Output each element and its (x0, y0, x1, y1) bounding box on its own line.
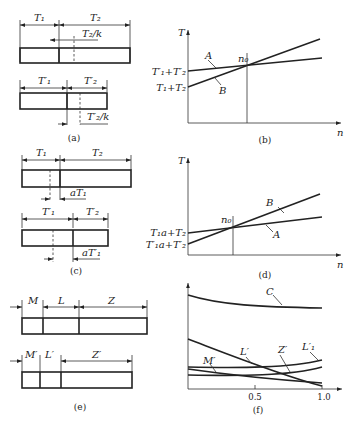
b-y-axis-label: T (178, 27, 186, 38)
f-curve-m-prime-label: M′ (202, 355, 216, 366)
e-bottom-m-label: M′ (24, 349, 38, 360)
a-bottom-t1-label: T′₁ (38, 75, 51, 86)
diagram-canvas: T₁ T₂ T₂/k T′₁ T′₂ T′₂/k (a) T n n₀ (0, 0, 352, 425)
e-top-z-label: Z (107, 295, 116, 306)
panel-d: T n n₀ B A T₁a+T₂ T′₁a+T′₂ (d) (146, 155, 344, 280)
f-curve-l1-prime-label: L′₁ (301, 341, 315, 352)
f-curve-z-prime-label: Z′ (277, 344, 288, 355)
a-top-t2-label: T₂ (90, 12, 101, 23)
d-line-b-label: B (265, 197, 273, 208)
c-bottom-shift-label: aT′₁ (82, 247, 101, 258)
panel-b: T n n₀ A B T′₁+T′₂ T₁+T₂ (b) (152, 27, 344, 145)
c-top-t1-label: T₁ (36, 147, 47, 158)
e-bottom-z-label: Z′ (91, 349, 102, 360)
e-top-bar (22, 318, 147, 334)
b-intercept-a: T′₁+T′₂ (152, 66, 186, 77)
a-top-shift-label: T₂/k (82, 28, 102, 39)
d-intercept-b: T′₁a+T′₂ (146, 239, 186, 250)
e-top-l-label: L (57, 295, 65, 306)
a-bottom-t2-label: T′₂ (84, 75, 97, 86)
b-intercept-b: T₁+T₂ (156, 82, 186, 93)
d-x-axis-label: n (337, 259, 343, 270)
b-line-b-label: B (218, 85, 226, 96)
a-top-t1-label: T₁ (34, 12, 45, 23)
e-bottom-l-label: L′ (44, 349, 55, 360)
b-intersection-label: n₀ (238, 53, 248, 64)
f-curve-c (188, 295, 322, 308)
panel-c: T₁ T₂ aT₁ T′₁ T′₂ aT′₁ (c) (22, 147, 131, 276)
panel-a: T₁ T₂ T₂/k T′₁ T′₂ T′₂/k (a) (20, 12, 130, 143)
caption-e: (e) (74, 402, 86, 412)
c-bottom-t2-label: T′₂ (86, 206, 99, 217)
f-tick-10: 1.0 (317, 392, 331, 402)
a-top-bar (20, 48, 130, 63)
a-bottom-shift-label: T′₂/k (87, 111, 109, 122)
e-bottom-bar (22, 372, 132, 388)
caption-d: (d) (259, 270, 272, 280)
c-bottom-bar (22, 230, 108, 246)
panel-f: 0.5 1.0 C L′ L′₁ Z′ M′ (f) (188, 283, 342, 415)
f-tick-05: 0.5 (248, 392, 262, 402)
panel-e: M L Z M′ L′ Z′ (e) (10, 295, 147, 412)
f-curve-l-prime-label: L′ (239, 346, 250, 357)
caption-f: (f) (253, 405, 263, 415)
a-bottom-bar (20, 93, 107, 109)
caption-c: (c) (70, 266, 82, 276)
caption-a: (a) (68, 133, 80, 143)
d-intercept-a: T₁a+T₂ (150, 227, 186, 238)
d-line-a-label: A (272, 229, 280, 240)
d-intersection-label: n₀ (221, 214, 231, 225)
b-x-axis-label: n (337, 127, 343, 138)
caption-b: (b) (259, 135, 272, 145)
e-top-m-label: M (27, 295, 39, 306)
c-top-t2-label: T₂ (92, 147, 103, 158)
b-line-b (188, 39, 320, 87)
d-y-axis-label: T (178, 155, 186, 166)
c-top-bar (22, 170, 131, 187)
c-bottom-t1-label: T′₁ (42, 206, 55, 217)
b-line-a-label: A (204, 50, 212, 61)
f-curve-c-label: C (266, 286, 274, 297)
c-top-shift-label: aT₁ (70, 187, 87, 198)
